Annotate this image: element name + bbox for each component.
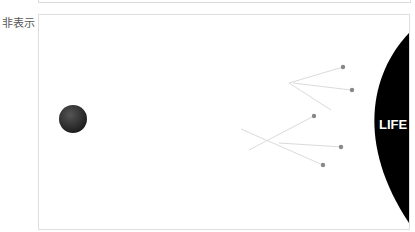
- hidden-image-panel: LIFE: [38, 14, 410, 230]
- node-dots: [312, 65, 354, 167]
- planet-label: LIFE: [379, 117, 407, 132]
- connector-lines: [241, 67, 351, 165]
- top-preview-panel: [38, 0, 411, 3]
- life-illustration: LIFE: [39, 15, 409, 229]
- sphere-icon: [59, 105, 87, 133]
- hidden-label: 非表示: [2, 14, 35, 30]
